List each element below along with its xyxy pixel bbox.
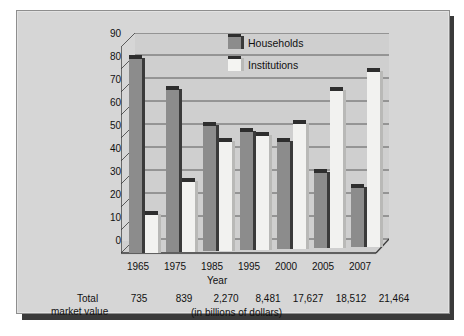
bar-institutions-1985[interactable] [219,141,232,251]
x-label-2007: 2007 [340,261,380,272]
bar-households-2007[interactable] [351,187,364,247]
legend-swatch-institutions-icon [228,58,241,71]
y-tick-0: 0 [91,236,121,246]
bar-households-2005[interactable] [314,172,327,248]
x-axis-title: Year [207,275,227,286]
legend-item-institutions[interactable]: Institutions [228,58,378,71]
x-label-2005: 2005 [303,261,343,272]
chart-screenshot: 90 80 70 60 50 40 30 20 10 0 [0,0,464,336]
total-value-2007: 21,464 [371,293,417,304]
bar-institutions-2000[interactable] [293,123,306,249]
total-value-2000: 17,627 [285,293,331,304]
y-tick-90: 90 [91,29,121,39]
y-tick-10: 10 [91,213,121,223]
units-note: (in billions of dollars) [191,307,282,318]
total-value-1965: 735 [116,293,162,304]
legend-swatch-households-icon [228,36,241,49]
x-label-1965: 1965 [118,261,158,272]
total-value-1975: 839 [161,293,207,304]
x-label-1975: 1975 [155,261,195,272]
total-label-line1: Total [77,293,98,304]
chart-panel: 90 80 70 60 50 40 30 20 10 0 [16,10,450,314]
total-market-value-row: Total market value 735 839 2,270 8,481 1… [51,293,431,327]
bar-households-1995[interactable] [240,131,253,250]
legend: Households Institutions [228,36,378,80]
legend-label-institutions: Institutions [248,59,298,71]
bar-institutions-1975[interactable] [182,181,195,252]
y-tick-20: 20 [91,190,121,200]
total-label-line2: market value [51,306,108,317]
y-tick-60: 60 [91,98,121,108]
bar-households-1975[interactable] [166,89,179,252]
total-value-2005: 18,512 [328,293,374,304]
bar-institutions-2005[interactable] [330,90,343,248]
bar-institutions-1995[interactable] [256,135,269,250]
x-axis-labels: 1965 1975 1985 1995 2000 2005 2007 [121,261,411,275]
x-label-1985: 1985 [192,261,232,272]
y-axis: 90 80 70 60 50 40 30 20 10 0 [17,11,121,255]
legend-label-households: Households [248,37,303,49]
y-tick-50: 50 [91,121,121,131]
legend-item-households[interactable]: Households [228,36,378,49]
total-value-1985: 2,270 [203,293,249,304]
y-tick-30: 30 [91,167,121,177]
y-tick-40: 40 [91,144,121,154]
bar-institutions-1965[interactable] [145,214,158,253]
y-tick-70: 70 [91,75,121,85]
bar-households-1965[interactable] [129,58,142,253]
x-label-1995: 1995 [229,261,269,272]
x-label-2000: 2000 [266,261,306,272]
bar-households-1985[interactable] [203,125,216,251]
y-tick-80: 80 [91,52,121,62]
bar-institutions-2007[interactable] [367,71,380,247]
bar-households-2000[interactable] [277,141,290,249]
